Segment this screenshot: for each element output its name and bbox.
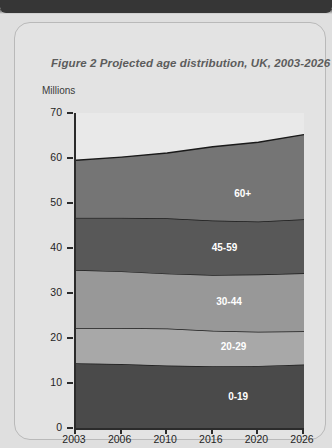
series-label-45-59: 45-59 — [204, 242, 244, 253]
x-axis-tick-label: 2003 — [52, 433, 96, 445]
figure-panel: Figure 2 Projected age distribution, UK,… — [14, 22, 326, 440]
series-label-20-29: 20-29 — [214, 341, 254, 352]
area-band-20-29 — [76, 328, 304, 366]
y-axis-tick-mark — [67, 292, 73, 294]
area-band-45-59 — [76, 218, 304, 275]
y-axis-tick-mark — [67, 382, 73, 384]
chart-plot-area — [74, 113, 304, 430]
area-band-0-19 — [76, 363, 304, 428]
x-axis-tick-label: 2016 — [189, 433, 233, 445]
area-band-60plus — [76, 135, 304, 222]
area-band-30-44 — [76, 270, 304, 332]
page-title: Figure 2 Projected age distribution, UK,… — [51, 57, 330, 69]
y-axis-tick-label: 40 — [36, 241, 62, 253]
series-label-0-19: 0-19 — [218, 391, 258, 402]
y-axis-tick-mark — [67, 247, 73, 249]
x-axis-tick-label: 2006 — [98, 433, 142, 445]
series-label-30-44: 30-44 — [209, 296, 249, 307]
y-axis-unit-label: Millions — [42, 85, 75, 96]
y-axis-tick-label: 70 — [36, 106, 62, 118]
y-axis-tick-label: 10 — [36, 376, 62, 388]
y-axis-tick-label: 50 — [36, 196, 62, 208]
series-label-60plus: 60+ — [223, 188, 263, 199]
figure-screenshot: Figure 2 Projected age distribution, UK,… — [0, 0, 332, 448]
y-axis-tick-label: 30 — [36, 286, 62, 298]
x-axis-tick-label: 2010 — [143, 433, 187, 445]
y-axis-tick-mark — [67, 157, 73, 159]
y-axis-tick-label: 20 — [36, 331, 62, 343]
page-top-edge-shadow — [0, 9, 332, 14]
y-axis-tick-mark — [67, 337, 73, 339]
y-axis-tick-mark — [67, 427, 73, 429]
y-axis-tick-label: 0 — [36, 421, 62, 433]
y-axis-tick-label: 60 — [36, 151, 62, 163]
x-axis-tick-label: 2020 — [234, 433, 278, 445]
stacked-area-chart — [76, 113, 304, 428]
x-axis-tick-label: 2026 — [280, 433, 324, 445]
y-axis-tick-mark — [67, 202, 73, 204]
y-axis-tick-mark — [67, 112, 73, 114]
